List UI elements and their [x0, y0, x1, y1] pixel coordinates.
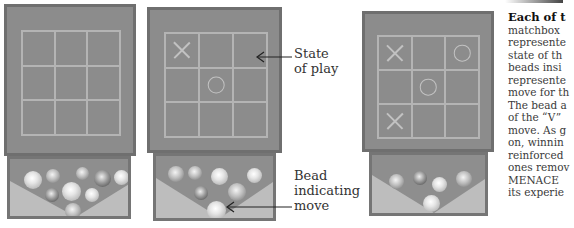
grid-cell-o: [412, 70, 446, 104]
bead: [247, 168, 262, 183]
grid-cell: [55, 100, 88, 135]
caption-line: of the “V”: [508, 111, 574, 124]
label-line: move: [294, 198, 360, 213]
bead: [413, 171, 427, 185]
grid-cell: [55, 31, 88, 66]
bead: [194, 186, 208, 200]
caption-line: on, winnin: [508, 136, 574, 149]
bead-indicating-move-label: Bead indicating move: [294, 168, 360, 213]
grid-cell: [165, 102, 199, 137]
matchbox-tray: [369, 152, 488, 216]
label-line: State: [294, 46, 338, 61]
grid-cell: [412, 36, 446, 70]
grid-cell: [199, 33, 233, 68]
grid-cell: [87, 100, 120, 135]
caption-line: beads insi: [508, 61, 574, 74]
caption-heading: Each of t: [508, 11, 574, 24]
bead: [62, 182, 81, 201]
grid-cell: [55, 66, 88, 101]
grid-cell-x: [378, 104, 412, 138]
grid-cell: [22, 66, 55, 101]
bead: [188, 166, 202, 180]
caption-line: its experie: [508, 186, 574, 199]
bead: [423, 195, 440, 212]
grid-cell: [445, 70, 479, 104]
caption-line: matchbox: [508, 24, 574, 37]
grid-cell-x: [165, 33, 199, 68]
grid-cell: [87, 31, 120, 66]
bead: [456, 171, 472, 187]
arrow-icon: [254, 50, 294, 64]
grid-cell: [412, 104, 446, 138]
caption-line: represente: [508, 36, 574, 49]
arrow-icon: [224, 200, 294, 214]
top-rule: [505, 0, 563, 3]
matchbox-lid: [4, 4, 136, 156]
grid-cell: [233, 68, 267, 103]
bead: [24, 171, 42, 189]
caption-line: reinforced: [508, 149, 574, 162]
caption-line: state of th: [508, 49, 574, 62]
matchbox-lid: [147, 7, 282, 153]
bead: [211, 168, 228, 185]
bead: [432, 177, 447, 192]
bead: [45, 188, 59, 202]
matchbox-lid: [362, 11, 494, 152]
grid-cell: [87, 66, 120, 101]
label-line: of play: [294, 61, 338, 76]
bead: [76, 167, 89, 180]
tictactoe-grid: [164, 32, 268, 138]
grid-cell: [165, 68, 199, 103]
grid-cell: [445, 104, 479, 138]
bead: [46, 169, 60, 183]
bead: [114, 170, 129, 185]
caption-line: The bead a: [508, 99, 574, 112]
grid-cell: [22, 100, 55, 135]
label-line: indicating: [294, 183, 360, 198]
tictactoe-grid: [21, 30, 121, 136]
caption-line: move for th: [508, 86, 574, 99]
grid-cell: [378, 70, 412, 104]
state-of-play-label: State of play: [294, 46, 338, 76]
grid-cell-o: [445, 36, 479, 70]
bead: [85, 188, 99, 202]
bead: [65, 203, 81, 219]
tictactoe-grid: [377, 35, 480, 139]
matchbox-tray: [7, 156, 131, 219]
label-line: Bead: [294, 168, 360, 183]
caption-line: MENACE: [508, 174, 574, 187]
grid-cell: [22, 31, 55, 66]
bead: [389, 174, 404, 189]
grid-cell-x: [378, 36, 412, 70]
grid-cell: [199, 102, 233, 137]
caption-line: move. As g: [508, 124, 574, 137]
bead: [168, 166, 184, 182]
grid-cell-o: [199, 68, 233, 103]
grid-cell: [233, 102, 267, 137]
caption-line: represente: [508, 74, 574, 87]
bead: [228, 183, 246, 201]
caption-line: ones remov: [508, 161, 574, 174]
caption-text: Each of t matchbox represente state of t…: [508, 11, 574, 199]
bead: [94, 170, 111, 187]
